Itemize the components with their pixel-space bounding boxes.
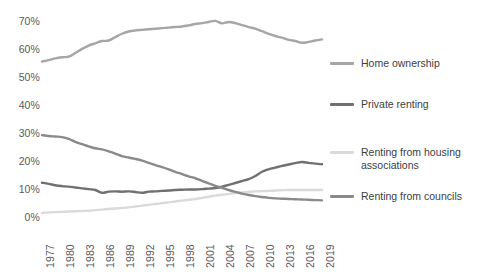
x-tick-label: 1998 — [184, 244, 196, 268]
series-line — [42, 190, 322, 213]
x-tick-label: 1977 — [44, 244, 56, 268]
x-tick-label: 1989 — [124, 244, 136, 268]
x-tick-label: 1983 — [84, 244, 96, 268]
legend-item[interactable]: Renting from housing associations — [330, 146, 479, 172]
x-tick-label: 2001 — [204, 244, 216, 268]
legend-label: Renting from councils — [361, 190, 462, 203]
legend-swatch-icon — [330, 103, 354, 106]
legend-item[interactable]: Home ownership — [330, 57, 440, 70]
legend-label: Home ownership — [361, 57, 440, 70]
x-tick-label: 2007 — [244, 244, 256, 268]
legend-label: Private renting — [361, 98, 429, 111]
x-tick-label: 2016 — [304, 244, 316, 268]
x-axis: 1977198019831986198919921995199820012004… — [40, 222, 325, 272]
legend-swatch-icon — [330, 62, 354, 65]
legend-swatch-icon — [330, 195, 354, 198]
legend-item[interactable]: Private renting — [330, 98, 429, 111]
x-tick-label: 2013 — [284, 244, 296, 268]
legend-label: Renting from housing associations — [361, 146, 479, 172]
series-line — [42, 21, 322, 62]
legend-item[interactable]: Renting from councils — [330, 190, 462, 203]
x-tick-label: 2010 — [264, 244, 276, 268]
x-tick-label: 2004 — [224, 244, 236, 268]
x-tick-label: 1980 — [64, 244, 76, 268]
x-tick-label: 1986 — [104, 244, 116, 268]
legend-swatch-icon — [330, 151, 354, 154]
series-line — [42, 162, 322, 193]
x-tick-label: 1992 — [144, 244, 156, 268]
x-tick-label: 1995 — [164, 244, 176, 268]
line-chart: 0%10%20%30%40%50%60%70% 1977198019831986… — [0, 0, 483, 272]
chart-legend: Home ownershipPrivate rentingRenting fro… — [330, 0, 483, 272]
